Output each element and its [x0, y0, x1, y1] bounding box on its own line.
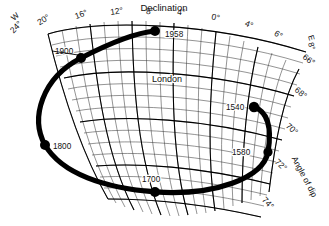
- data-point-1540[interactable]: [249, 102, 259, 112]
- data-label-1958: 1958: [165, 30, 184, 39]
- data-point-1580[interactable]: [263, 147, 272, 156]
- data-label-1580: 1580: [232, 148, 251, 157]
- x-tick-12w: 12°: [109, 5, 123, 17]
- data-label-1700: 1700: [142, 175, 161, 184]
- data-label-1540: 1540: [226, 103, 245, 112]
- city-label: London: [152, 74, 182, 84]
- data-label-1800: 1800: [53, 142, 72, 151]
- chart-figure: Declination London W E 24° 20° 16° 12° 8…: [0, 0, 329, 226]
- data-point-1700[interactable]: [150, 187, 160, 197]
- data-point-1800[interactable]: [40, 140, 50, 150]
- data-point-1958[interactable]: [150, 26, 160, 36]
- x-tick-8w: 8°: [146, 6, 154, 16]
- x-tick-4w: 4°: [177, 7, 186, 18]
